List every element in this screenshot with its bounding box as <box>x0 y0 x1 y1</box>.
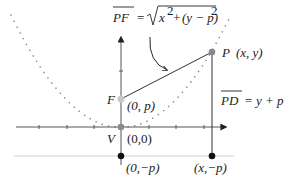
formula-pf-sup2: 2 <box>211 3 218 18</box>
formula-pf-lhs: PF <box>112 10 130 25</box>
formula-pd-rhs: = y + p <box>244 93 284 108</box>
curved-arrow-icon <box>150 37 167 70</box>
point-p <box>209 49 216 56</box>
formula-pf-x: x <box>158 10 165 25</box>
formula-pf-eq: = <box>137 10 144 25</box>
formula-pf-plus: + <box>173 10 180 25</box>
segment-pf <box>121 52 212 99</box>
label-f-name: F <box>106 92 116 107</box>
point-directrix-origin <box>118 153 125 160</box>
label-f-coords: (0, p) <box>127 98 155 113</box>
label-v-coords: (0,0) <box>127 131 152 146</box>
point-focus <box>118 96 125 103</box>
formula-pd-lhs: PD <box>220 93 239 108</box>
point-directrix-d <box>209 153 216 160</box>
label-d-coords: (x,−p) <box>194 160 227 175</box>
label-d0-coords: (0,−p) <box>126 160 160 175</box>
formula-pf: PF = x 2 + (y − p) 2 <box>112 3 218 25</box>
point-vertex <box>118 124 125 131</box>
formula-pd: PD = y + p <box>220 91 284 108</box>
label-v-name: V <box>107 131 117 146</box>
parabola-diagram: PF = x 2 + (y − p) 2 P (x, y) F (0, p) P… <box>0 0 288 187</box>
label-p-coords: (x, y) <box>236 45 263 60</box>
label-p-name: P <box>221 45 230 60</box>
